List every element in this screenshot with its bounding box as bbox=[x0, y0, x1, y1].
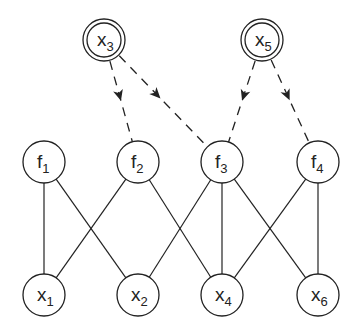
variable-node-x4: x4 bbox=[201, 274, 243, 316]
observed-node-x5: x5 bbox=[241, 19, 283, 61]
dashed-arrows-layer bbox=[110, 56, 309, 147]
factor-node-f3: f3 bbox=[201, 141, 243, 183]
arrowhead-icon bbox=[113, 89, 126, 102]
factor-node-f4: f4 bbox=[297, 141, 339, 183]
nodes-layer: x3x5f1f2f3f4x1x2x4x6 bbox=[23, 19, 339, 316]
variable-node-x6: x6 bbox=[297, 274, 339, 316]
factor-graph: x3x5f1f2f3f4x1x2x4x6 bbox=[0, 0, 361, 336]
dashed-arrow-x3-f3 bbox=[119, 56, 207, 147]
edges-layer bbox=[44, 179, 318, 278]
factor-node-f1: f1 bbox=[23, 141, 65, 183]
dashed-arrow-x5-f4 bbox=[271, 60, 309, 143]
variable-node-x1: x1 bbox=[23, 274, 65, 316]
dashed-arrow-x5-f3 bbox=[229, 61, 256, 142]
observed-node-x3: x3 bbox=[83, 19, 125, 61]
arrowhead-icon bbox=[149, 87, 164, 102]
arrowhead-icon bbox=[281, 88, 295, 102]
factor-node-f2: f2 bbox=[117, 141, 159, 183]
variable-node-x2: x2 bbox=[117, 274, 159, 316]
dashed-arrow-x3-f2 bbox=[110, 61, 132, 142]
arrowhead-icon bbox=[237, 89, 250, 103]
